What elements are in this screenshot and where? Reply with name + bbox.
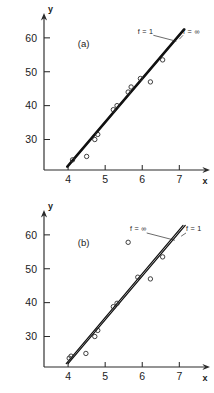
x-tick-label-a-1: 5 — [102, 173, 108, 185]
plot-area-b: yx456730405060f = ∞f = 1(b) — [25, 201, 210, 383]
panel-label-b: (b) — [78, 237, 90, 248]
series-label-b-1: f = 1 — [186, 224, 202, 233]
x-tick-label-b-3: 7 — [176, 370, 182, 382]
data-point-a-10 — [160, 58, 164, 62]
figure-root: yx456730405060f = 1f = ∞(a) yx4567304050… — [0, 0, 214, 393]
data-point-a-2 — [93, 137, 97, 141]
x-tick-label-a-2: 6 — [139, 173, 145, 185]
data-point-b-10 — [160, 255, 164, 259]
annotation-leader-b-0 — [147, 233, 175, 240]
y-tick-label-a-0: 30 — [25, 133, 37, 145]
y-tick-label-b-0: 30 — [25, 330, 37, 342]
x-axis-label-b: x — [202, 373, 207, 383]
series-label-a-0: f = 1 — [138, 27, 154, 36]
y-tick-label-a-1: 40 — [25, 99, 37, 111]
x-axis-label-a: x — [202, 176, 207, 186]
x-tick-label-b-0: 4 — [65, 370, 71, 382]
series-label-a-1: f = ∞ — [183, 27, 200, 36]
y-tick-label-a-3: 60 — [25, 32, 37, 44]
data-point-a-1 — [84, 154, 88, 158]
data-point-a-7 — [129, 85, 133, 89]
annotation-leader-a-0 — [153, 35, 176, 41]
y-tick-label-b-3: 60 — [25, 229, 37, 241]
fit-line-a-1 — [68, 29, 185, 166]
data-point-a-9 — [148, 80, 152, 84]
chart-svg-a: yx456730405060f = 1f = ∞(a) — [0, 0, 214, 196]
data-point-b-9 — [148, 277, 152, 281]
y-tick-label-a-2: 50 — [25, 66, 37, 78]
y-axis-label-b: y — [48, 201, 53, 211]
x-tick-label-b-1: 5 — [102, 370, 108, 382]
chart-panel-b: yx456730405060f = ∞f = 1(b) — [0, 197, 214, 393]
data-point-b-7 — [126, 240, 130, 244]
y-tick-label-b-2: 50 — [25, 263, 37, 275]
series-label-b-0: f = ∞ — [130, 224, 147, 233]
chart-svg-b: yx456730405060f = ∞f = 1(b) — [0, 197, 214, 393]
plot-area-a: yx456730405060f = 1f = ∞(a) — [25, 4, 210, 186]
x-tick-label-a-3: 7 — [176, 173, 182, 185]
data-point-b-3 — [93, 334, 97, 338]
x-tick-label-a-0: 4 — [65, 173, 71, 185]
data-point-b-2 — [84, 351, 88, 355]
y-axis-label-a: y — [48, 4, 53, 14]
chart-panel-a: yx456730405060f = 1f = ∞(a) — [0, 0, 214, 196]
y-tick-label-b-1: 40 — [25, 296, 37, 308]
x-tick-label-b-2: 6 — [139, 370, 145, 382]
panel-label-a: (a) — [78, 38, 90, 49]
